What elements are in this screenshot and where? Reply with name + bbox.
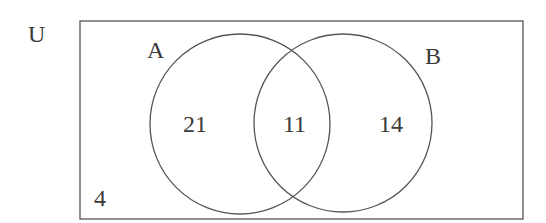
set-a-label: A: [147, 38, 164, 62]
a-only-count: 21: [183, 112, 207, 136]
intersection-count: 11: [283, 112, 306, 136]
set-b-label: B: [425, 44, 441, 68]
venn-diagram: [0, 0, 546, 223]
universe-label: U: [28, 22, 45, 46]
b-only-count: 14: [379, 112, 403, 136]
set-b-circle: [254, 34, 432, 212]
outside-count: 4: [94, 186, 106, 210]
